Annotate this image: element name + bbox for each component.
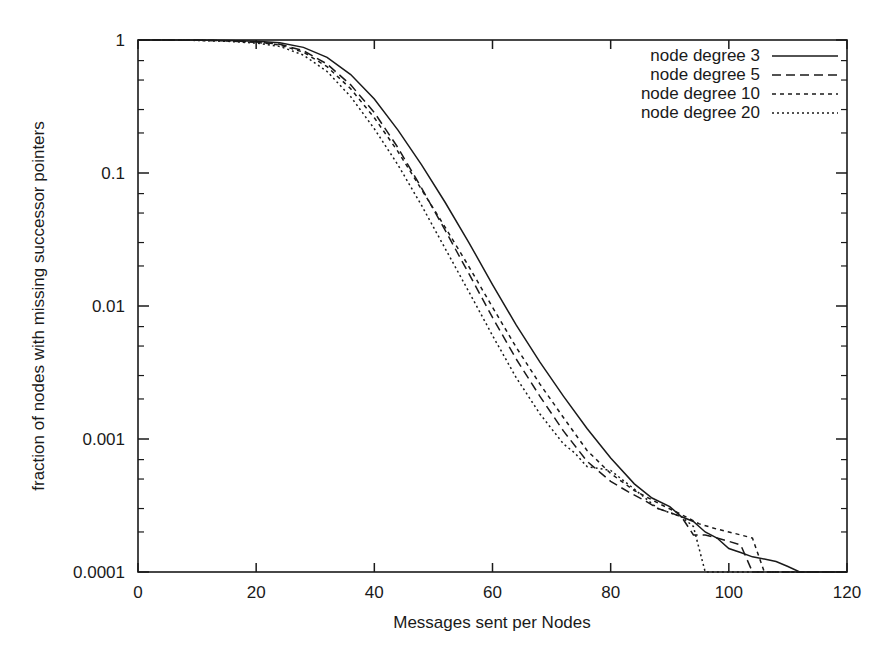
chart-figure: 020406080100120 10.10.010.0010.0001 node… xyxy=(0,0,889,665)
x-axis-tick-labels: 020406080100120 xyxy=(133,583,861,602)
y-axis-tick-labels: 10.10.010.0010.0001 xyxy=(73,31,125,582)
chart-legend: node degree 3node degree 5node degree 10… xyxy=(641,46,838,122)
x-tick-label: 120 xyxy=(833,583,861,602)
y-axis-title: fraction of nodes with missing successor… xyxy=(29,121,48,490)
y-tick-label: 0.1 xyxy=(101,164,125,183)
x-tick-label: 40 xyxy=(365,583,384,602)
y-tick-label: 1 xyxy=(116,31,125,50)
y-tick-label: 0.001 xyxy=(82,430,125,449)
y-tick-label: 0.0001 xyxy=(73,563,125,582)
y-axis-minor-ticks xyxy=(138,61,847,532)
y-tick-label: 0.01 xyxy=(92,297,125,316)
x-tick-label: 20 xyxy=(247,583,266,602)
legend-label-1: node degree 3 xyxy=(650,46,760,65)
chart-plot-area: 020406080100120 10.10.010.0010.0001 node… xyxy=(0,0,889,665)
legend-label-2: node degree 5 xyxy=(650,65,760,84)
x-tick-label: 0 xyxy=(133,583,142,602)
legend-label-4: node degree 20 xyxy=(641,103,760,122)
x-tick-label: 100 xyxy=(715,583,743,602)
x-tick-label: 80 xyxy=(601,583,620,602)
x-tick-label: 60 xyxy=(483,583,502,602)
x-axis-title: Messages sent per Nodes xyxy=(393,613,591,632)
legend-label-3: node degree 10 xyxy=(641,84,760,103)
